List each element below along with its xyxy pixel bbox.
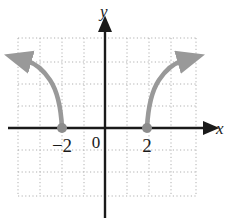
x-axis-label: x	[215, 119, 224, 138]
x-tick-label-neg-two: −2	[52, 135, 72, 156]
right-root-dot	[142, 123, 152, 133]
x-tick-label-two: 2	[142, 135, 152, 156]
coordinate-plane-svg: −2 2 0 x y	[0, 0, 230, 218]
left-root-dot	[57, 123, 67, 133]
left-branch-curve	[27, 61, 62, 128]
origin-label: 0	[92, 133, 101, 152]
y-axis-label: y	[98, 2, 108, 21]
grid-lines	[18, 38, 196, 196]
graph-figure: −2 2 0 x y	[0, 0, 230, 218]
right-branch-curve	[147, 61, 182, 128]
